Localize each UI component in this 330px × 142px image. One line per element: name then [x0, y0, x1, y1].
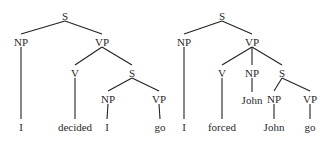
tree-edge — [282, 78, 310, 91]
node-label: VP — [303, 93, 317, 105]
leaf-word: I — [105, 121, 109, 133]
tree-edge — [132, 78, 159, 91]
node-label: V — [71, 67, 79, 79]
tree-edge — [184, 21, 222, 34]
tree-labels: SNPVPVSNPVPIdecidedIgoSNPVPVNPSJohnNPVPI… — [14, 10, 317, 133]
tree-edge — [159, 104, 160, 119]
tree-edge — [107, 104, 108, 119]
node-label: S — [129, 67, 135, 79]
tree-edge — [75, 47, 102, 65]
leaf-word: go — [305, 121, 317, 133]
tree-decided — [21, 21, 160, 119]
node-label: NP — [14, 36, 28, 48]
node-label: NP — [101, 93, 115, 105]
tree-edge — [222, 47, 252, 65]
node-label: VP — [245, 36, 259, 48]
node-label: V — [218, 67, 226, 79]
leaf-word: I — [182, 121, 186, 133]
leaf-word: decided — [58, 121, 93, 133]
leaf-word: I — [19, 121, 23, 133]
node-label: S — [62, 10, 68, 22]
tree-edge — [222, 21, 252, 34]
tree-edge — [65, 21, 102, 34]
node-label: VP — [95, 36, 109, 48]
syntax-tree-diagram: SNPVPVSNPVPIdecidedIgoSNPVPVNPSJohnNPVPI… — [0, 0, 330, 142]
tree-edge — [108, 78, 132, 91]
leaf-word: forced — [208, 121, 237, 133]
node-label: S — [219, 10, 225, 22]
node-label: NP — [245, 67, 259, 79]
tree-edge — [252, 47, 282, 65]
leaf-word: John — [242, 94, 263, 106]
node-label: VP — [152, 93, 166, 105]
tree-edge — [274, 78, 282, 91]
tree-edge — [102, 47, 132, 65]
tree-edge — [21, 21, 65, 34]
node-label: NP — [177, 36, 191, 48]
leaf-word: John — [264, 121, 285, 133]
node-label: S — [279, 67, 285, 79]
leaf-word: go — [155, 121, 167, 133]
node-label: NP — [267, 93, 281, 105]
